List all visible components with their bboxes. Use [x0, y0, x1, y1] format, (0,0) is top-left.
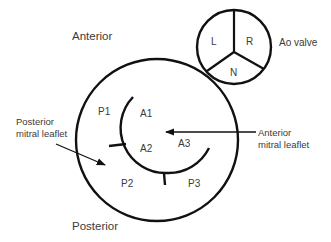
anterior-leaflet-label-line2: mitral leaflet [258, 139, 310, 150]
scallop-label-a2: A2 [140, 143, 153, 154]
scallop-label-p3: P3 [188, 178, 201, 189]
scallop-label-p1: P1 [98, 106, 111, 117]
cusp-label-right: R [246, 36, 253, 47]
cusp-label-noncoronary: N [230, 67, 237, 78]
aortic-valve: L R N Ao valve [197, 10, 318, 84]
coaptation-line-arc [121, 97, 209, 173]
mitral-annulus-circle [76, 59, 238, 221]
posterior-leaflet-label-line1: Posterior [16, 116, 54, 127]
scallop-label-a1: A1 [140, 108, 153, 119]
anterior-leaflet-label-line1: Anterior [258, 127, 291, 138]
posterior-orientation-label: Posterior [72, 220, 118, 232]
anterior-orientation-label: Anterior [72, 30, 112, 42]
p2-p3-divider-tick [164, 173, 165, 185]
aortic-valve-label: Ao valve [279, 37, 318, 48]
posterior-leaflet-arrow [56, 144, 105, 165]
cusp-label-left: L [211, 36, 217, 47]
scallop-label-a3: A3 [178, 138, 191, 149]
mitral-valve-diagram: Anterior Posterior L R N Ao valve A1 A2 … [0, 0, 331, 242]
scallop-label-p2: P2 [121, 178, 134, 189]
posterior-leaflet-label-line2: mitral leaflet [16, 128, 68, 139]
